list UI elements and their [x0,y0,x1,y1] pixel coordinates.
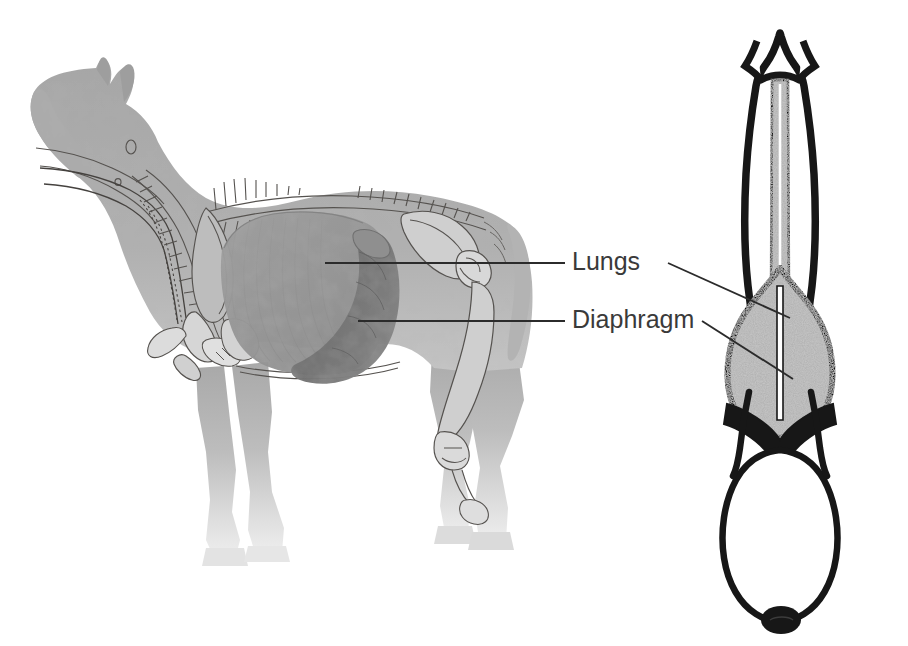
mediastinum-dorsal [777,286,783,420]
tail-base-dorsal [761,606,801,634]
hoof-4 [468,532,514,550]
hoof-1 [202,548,248,566]
label-lungs: Lungs [572,247,640,275]
hoof-3 [434,526,476,544]
abdomen-dorsal [723,450,838,622]
figure-canvas: Lungs Diaphragm [0,0,908,646]
anatomy-figure: Lungs Diaphragm [0,0,908,646]
label-diaphragm: Diaphragm [572,305,694,333]
hoof-2 [244,546,290,562]
